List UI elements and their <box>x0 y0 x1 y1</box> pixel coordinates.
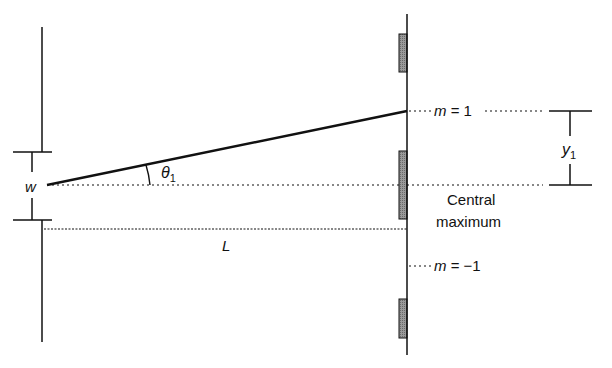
central-label-line2: maximum <box>436 213 501 230</box>
central-label-line1: Central <box>447 191 495 208</box>
y1-label: y1 <box>561 141 576 161</box>
angle-label: θ1 <box>161 164 176 184</box>
angle-arc <box>146 165 150 185</box>
distance-label: L <box>222 237 230 254</box>
dark-fringe-center <box>399 151 407 219</box>
screen <box>399 14 407 355</box>
diffraction-diagram: w θ1 L m = 1 y1 Central maximum m = −1 <box>0 0 612 368</box>
slit-width-label: w <box>25 178 37 195</box>
y1-bracket <box>549 111 592 185</box>
dark-fringe-top <box>399 34 407 72</box>
order-minus-label: m = −1 <box>434 257 481 274</box>
dark-fringe-bottom <box>399 299 407 338</box>
order-plus-label: m = 1 <box>434 102 472 119</box>
ray-line <box>47 111 407 185</box>
